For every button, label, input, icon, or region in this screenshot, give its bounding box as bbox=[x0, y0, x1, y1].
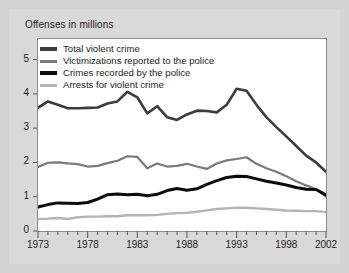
legend-swatch-icon bbox=[40, 47, 57, 51]
x-axis-tick-label: 2002 bbox=[306, 239, 346, 250]
y-axis-tick-label: 5 bbox=[15, 53, 29, 64]
legend-swatch-icon bbox=[40, 60, 57, 63]
legend-label: Victimizations reported to the police bbox=[63, 55, 214, 67]
chart-legend: Total violent crimeVictimizations report… bbox=[40, 43, 290, 91]
legend-item: Arrests for violent crime bbox=[40, 79, 290, 91]
legend-item: Total violent crime bbox=[40, 43, 290, 55]
x-axis-tick-label: 1978 bbox=[68, 239, 108, 250]
chart-figure: Offenses in millions 0123451973197819831… bbox=[0, 0, 349, 273]
legend-label: Total violent crime bbox=[63, 43, 140, 55]
y-axis-tick-label: 2 bbox=[15, 155, 29, 166]
y-axis-tick-label: 3 bbox=[15, 121, 29, 132]
axis-ticks bbox=[0, 0, 349, 273]
legend-label: Arrests for violent crime bbox=[63, 79, 164, 91]
x-axis-tick-label: 1993 bbox=[217, 239, 257, 250]
y-axis-tick-label: 4 bbox=[15, 87, 29, 98]
x-axis-tick-label: 1988 bbox=[167, 239, 207, 250]
x-axis-tick-label: 1973 bbox=[18, 239, 58, 250]
y-axis-tick-label: 1 bbox=[15, 190, 29, 201]
legend-item: Crimes recorded by the police bbox=[40, 67, 290, 79]
legend-swatch-icon bbox=[40, 71, 57, 75]
legend-item: Victimizations reported to the police bbox=[40, 55, 290, 67]
x-axis-tick-label: 1983 bbox=[117, 239, 157, 250]
y-axis-tick-label: 0 bbox=[15, 224, 29, 235]
legend-label: Crimes recorded by the police bbox=[63, 67, 190, 79]
legend-swatch-icon bbox=[40, 84, 57, 87]
x-axis-tick-label: 1998 bbox=[266, 239, 306, 250]
